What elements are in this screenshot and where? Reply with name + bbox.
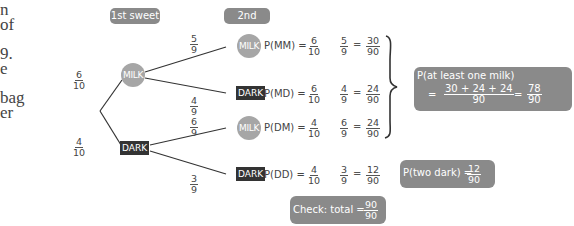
node-milk-dm: MILK (237, 116, 261, 140)
outcome-label: P(DM) = (264, 121, 306, 135)
two-dark-box: P(two dark) = 1290 (400, 160, 495, 188)
at-least-one-milk-box: P(at least one milk) = 30 + 24 + 2490 = … (414, 67, 572, 111)
sum-fraction: 30 + 24 + 2490 (444, 83, 514, 105)
equals-sign: = (353, 168, 361, 179)
branch-line (150, 151, 226, 174)
fraction-a: 410 (308, 165, 320, 186)
node-dark-first: DARK (120, 141, 149, 155)
branch-prob-mm: 59 (190, 34, 198, 55)
fraction-a: 610 (308, 84, 320, 105)
fraction-b: 69 (340, 118, 348, 139)
branch-line (150, 128, 226, 145)
fraction-a: 410 (308, 118, 320, 139)
branch-prob-dark: 410 (73, 137, 85, 158)
check-label: Check: total = (293, 204, 365, 215)
fraction-b: 59 (340, 36, 348, 57)
equals-sign: = (353, 39, 361, 50)
tree-lines (0, 0, 574, 226)
fraction-result: 1290 (366, 165, 380, 186)
branch-line (100, 80, 122, 111)
node-milk-mm: MILK (237, 34, 261, 58)
fraction-a: 610 (308, 36, 320, 57)
check-fraction: 9090 (364, 199, 378, 221)
branch-line (145, 78, 226, 93)
header-2nd-sweet: 2nd sweet (224, 8, 270, 24)
check-total-box: Check: total = 9090 (290, 196, 386, 224)
outcome-label: P(DD) = (264, 168, 305, 182)
node-milk-first: MILK (121, 63, 145, 87)
node-dark-dd: DARK (236, 167, 265, 181)
node-dark-md: DARK (236, 86, 265, 100)
fraction-b: 39 (340, 165, 348, 186)
branch-prob-milk: 610 (73, 70, 85, 91)
outcome-label: P(MD) = (264, 87, 306, 101)
fraction-result: 3090 (366, 36, 380, 57)
equals-sign: = (514, 89, 522, 100)
equals-sign: = (428, 89, 436, 100)
branch-line (100, 111, 121, 145)
fraction-result: 2490 (366, 118, 380, 139)
result-fraction: 7890 (527, 83, 542, 105)
branch-prob-md: 49 (190, 96, 198, 117)
header-1st-sweet: 1st sweet (110, 8, 160, 24)
equals-sign: = (353, 87, 361, 98)
brace (385, 36, 397, 138)
two-dark-label: P(two dark) = (403, 167, 472, 178)
equals-sign: = (353, 121, 361, 132)
fraction-b: 49 (340, 84, 348, 105)
fraction-result: 2490 (366, 84, 380, 105)
at-least-one-milk-title: P(at least one milk) (417, 70, 514, 81)
outcome-label: P(MM) = (264, 39, 307, 53)
branch-prob-dm: 69 (190, 117, 198, 138)
two-dark-fraction: 1290 (467, 163, 481, 185)
branch-prob-dd: 39 (190, 174, 198, 195)
branch-line (145, 47, 226, 72)
